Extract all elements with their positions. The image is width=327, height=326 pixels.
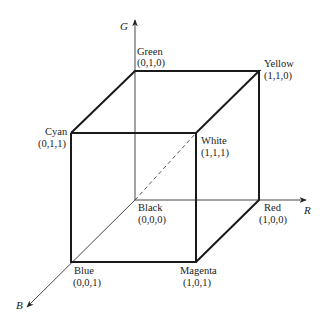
vertex-label-magenta: Magenta (1,0,1) bbox=[180, 265, 217, 289]
vertex-name: White bbox=[201, 135, 227, 146]
vertex-label-blue: Blue (0,0,1) bbox=[73, 265, 101, 289]
vertex-label-green: Green (0,1,0) bbox=[137, 46, 165, 69]
vertex-label-yellow: Yellow (1,1,0) bbox=[264, 58, 294, 82]
vertex-label-red: Red (1,0,0) bbox=[259, 202, 287, 226]
vertex-name: Yellow bbox=[264, 58, 294, 69]
vertex-name: Cyan bbox=[45, 126, 68, 137]
vertex-coords: (1,1,0) bbox=[264, 70, 292, 82]
axis-label-g: G bbox=[120, 20, 128, 32]
vertex-coords: (0,1,0) bbox=[137, 57, 165, 69]
vertex-label-white: White (1,1,1) bbox=[201, 135, 229, 159]
b-axis bbox=[27, 200, 135, 307]
vertex-coords: (0,0,0) bbox=[138, 214, 166, 226]
vertex-coords: (1,0,0) bbox=[259, 214, 287, 226]
vertex-name: Magenta bbox=[180, 265, 217, 276]
vertex-coords: (1,0,1) bbox=[183, 277, 211, 289]
vertex-coords: (0,0,1) bbox=[73, 277, 101, 289]
vertex-name: Green bbox=[137, 46, 163, 57]
axis-label-r: R bbox=[303, 204, 311, 216]
axis-label-b: B bbox=[16, 299, 23, 311]
vertex-name: Red bbox=[264, 202, 282, 213]
vertex-label-black: Black (0,0,0) bbox=[138, 202, 166, 226]
rgb-cube-diagram: G R B Green (0,1,0) Yellow (1,1,0) Cyan … bbox=[0, 0, 327, 326]
vertex-coords: (0,1,1) bbox=[38, 138, 66, 150]
vertex-coords: (1,1,1) bbox=[201, 147, 229, 159]
vertex-name: Blue bbox=[74, 265, 94, 276]
gray-diagonal bbox=[135, 133, 196, 200]
vertex-name: Black bbox=[138, 202, 163, 213]
vertex-label-cyan: Cyan (0,1,1) bbox=[38, 126, 68, 150]
